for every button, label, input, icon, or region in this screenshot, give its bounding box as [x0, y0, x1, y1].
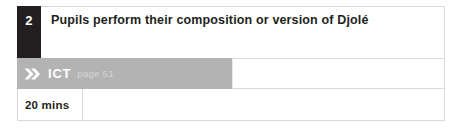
duration-row-empty-cell	[83, 89, 444, 120]
resource-cell[interactable]: ICT page 51	[17, 58, 233, 89]
activity-title-row: 2 Pupils perform their composition or ve…	[17, 6, 445, 58]
activity-title: Pupils perform their composition or vers…	[41, 7, 444, 58]
resource-page-reference: page 51	[77, 68, 113, 80]
resource-row-empty-cell	[233, 59, 444, 88]
duration-row: 20 mins	[17, 88, 445, 121]
resource-label: ICT	[48, 66, 71, 81]
double-chevron-icon	[24, 68, 41, 80]
resource-row: ICT page 51	[17, 58, 445, 88]
activity-card: 2 Pupils perform their composition or ve…	[17, 6, 445, 121]
step-number-badge: 2	[17, 6, 41, 59]
duration-value: 20 mins	[18, 89, 83, 120]
